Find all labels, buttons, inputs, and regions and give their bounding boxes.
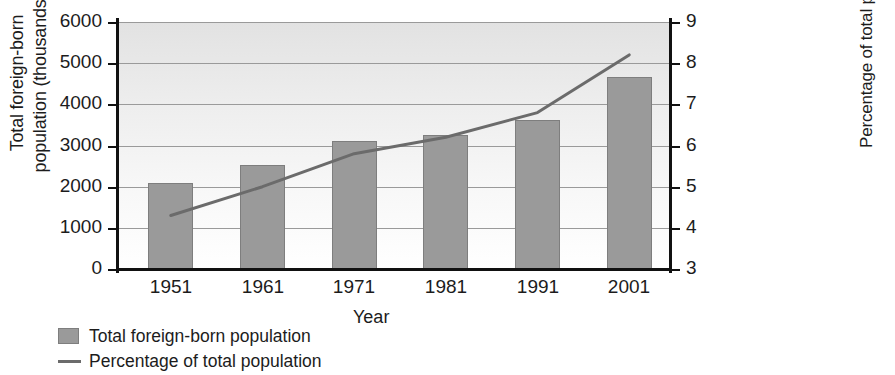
legend-item-line: Percentage of total population [58, 350, 322, 372]
x-axis-title: Year [353, 307, 389, 328]
left-axis-tick-label: 2000 [24, 175, 102, 197]
right-axis-tick [671, 63, 680, 65]
x-axis-tick-label: 1951 [126, 276, 216, 298]
right-axis-tick [671, 228, 680, 230]
left-axis-tick-label: 3000 [24, 134, 102, 156]
right-axis-line [669, 18, 672, 273]
right-axis-tick [671, 269, 680, 271]
legend-label-bar: Total foreign-born population [89, 326, 311, 347]
percentage-polyline [171, 55, 629, 216]
x-axis-tick-label: 1981 [401, 276, 491, 298]
left-axis-tick-label: 6000 [24, 10, 102, 32]
legend-item-bar: Total foreign-born population [58, 325, 322, 347]
right-axis-tick-label: 9 [686, 10, 697, 32]
left-axis-tick-label: 0 [24, 257, 102, 279]
left-axis-tick-label: 1000 [24, 216, 102, 238]
right-axis-tick-label: 8 [686, 51, 697, 73]
right-axis-tick [671, 104, 680, 106]
right-axis-tick-label: 5 [686, 175, 697, 197]
legend-label-line: Percentage of total population [89, 351, 322, 372]
x-axis-tick-label: 1971 [309, 276, 399, 298]
right-axis-tick-label: 6 [686, 134, 697, 156]
left-axis-tick-label: 4000 [24, 92, 102, 114]
chart-legend: Total foreign-born population Percentage… [58, 325, 322, 375]
legend-line-swatch-icon [58, 360, 81, 363]
right-axis-tick [671, 146, 680, 148]
right-axis-tick-label: 4 [686, 216, 697, 238]
left-axis-tick-label: 5000 [24, 51, 102, 73]
x-axis-tick-label: 1991 [493, 276, 583, 298]
right-axis-tick [671, 187, 680, 189]
percentage-line-series [119, 22, 669, 269]
x-axis-tick-label: 1961 [218, 276, 308, 298]
right-axis-tick [671, 22, 680, 24]
right-axis-tick-label: 3 [686, 257, 697, 279]
legend-square-swatch-icon [58, 328, 79, 344]
x-axis-tick-label: 2001 [584, 276, 674, 298]
right-axis-tick-label: 7 [686, 92, 697, 114]
right-axis-title: Percentage of total population [857, 0, 877, 163]
